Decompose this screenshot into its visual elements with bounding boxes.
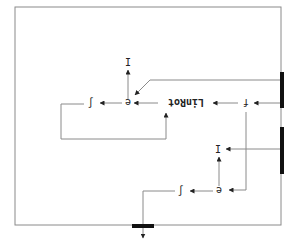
input-bar-bottom bbox=[280, 127, 284, 174]
wire-bar-to-e-diagonal bbox=[135, 80, 280, 95]
label-i-bottom: I bbox=[215, 143, 221, 154]
label-linrot: LinRot bbox=[168, 97, 204, 108]
label-integral-bottom: ∫ bbox=[178, 185, 184, 196]
label-e-bottom: e bbox=[216, 185, 222, 196]
outer-frame bbox=[15, 7, 281, 225]
label-f: f bbox=[243, 97, 249, 108]
output-bar bbox=[132, 224, 154, 228]
wire-integral-to-output bbox=[143, 191, 175, 224]
label-i-top: I bbox=[125, 56, 131, 67]
label-e-top: e bbox=[125, 97, 131, 108]
wire-f-to-e-bottom bbox=[229, 112, 246, 190]
label-integral-top: ∫ bbox=[88, 97, 94, 108]
wire-feedback-loop bbox=[61, 104, 166, 139]
block-diagram: LinRot f e I ∫ e I ∫ bbox=[0, 0, 296, 251]
input-bar-top bbox=[280, 72, 284, 108]
